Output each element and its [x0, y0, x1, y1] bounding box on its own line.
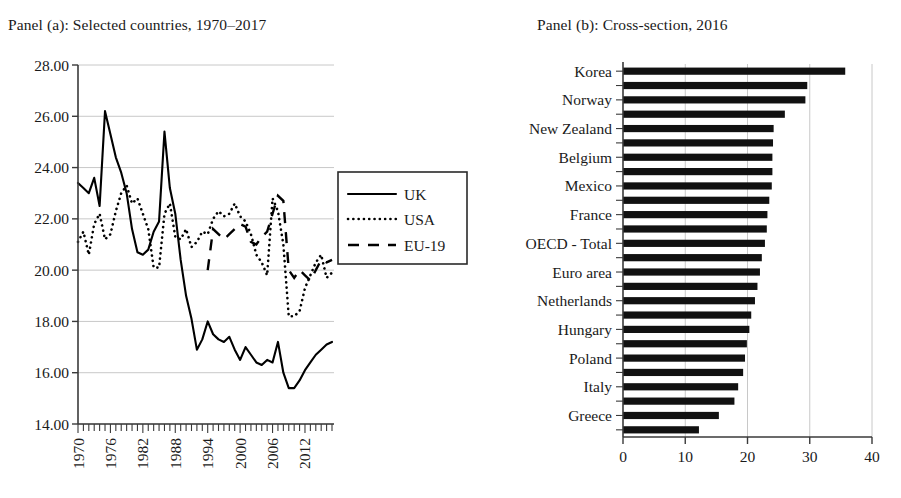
- bar: [623, 283, 757, 290]
- legend-box: [338, 172, 467, 264]
- category-label: Norway: [562, 91, 612, 108]
- y-tick-label: 16.00: [34, 364, 69, 381]
- y-tick-label: 14.00: [34, 416, 69, 433]
- panel-a-title: Panel (a): Selected countries, 1970–2017: [8, 16, 266, 34]
- figure-container: Panel (a): Selected countries, 1970–2017…: [0, 0, 901, 498]
- y-tick-label: 24.00: [34, 159, 69, 176]
- category-label: Mexico: [565, 177, 613, 194]
- bar: [623, 254, 762, 261]
- legend-label-uk: UK: [404, 186, 427, 203]
- bar: [623, 225, 767, 232]
- x-tick-label: 30: [802, 448, 818, 465]
- line-chart-svg: 28.0026.0024.0022.0020.0018.0016.0014.00…: [0, 0, 480, 498]
- x-tick-label: 1970: [70, 438, 87, 469]
- bar: [623, 268, 760, 275]
- bar: [623, 297, 755, 304]
- x-tick-label: 0: [619, 448, 627, 465]
- bar: [623, 111, 785, 118]
- category-label: Italy: [584, 378, 613, 395]
- category-label: Greece: [568, 407, 612, 424]
- bar: [623, 369, 743, 376]
- x-tick-label: 40: [864, 448, 880, 465]
- category-label: OECD - Total: [526, 235, 612, 252]
- bar: [623, 211, 767, 218]
- x-tick-label: 1994: [199, 438, 216, 469]
- line-uk: [78, 111, 332, 388]
- bar: [623, 82, 807, 89]
- panel-b: Panel (b): Cross-section, 2016 KoreaNorw…: [480, 0, 901, 498]
- x-tick-label: 1976: [102, 438, 119, 469]
- y-tick-label: 26.00: [34, 108, 69, 125]
- legend-label-usa: USA: [404, 211, 436, 228]
- legend-label-eu-19: EU-19: [404, 237, 446, 254]
- category-label: Euro area: [552, 264, 612, 281]
- panel-b-title: Panel (b): Cross-section, 2016: [537, 16, 728, 34]
- x-tick-label: 10: [678, 448, 694, 465]
- category-label: Hungary: [558, 321, 612, 338]
- bar: [623, 182, 772, 189]
- y-tick-label: 20.00: [34, 262, 69, 279]
- line-usa: [78, 186, 332, 317]
- bar: [623, 426, 699, 433]
- bar-chart-svg: KoreaNorwayNew ZealandBelgiumMexicoFranc…: [480, 0, 901, 498]
- bar: [623, 154, 772, 161]
- bar: [623, 340, 747, 347]
- category-label: Korea: [574, 63, 612, 80]
- category-label: Belgium: [559, 149, 612, 166]
- bar: [623, 197, 769, 204]
- bar: [623, 125, 774, 132]
- bar: [623, 412, 719, 419]
- bar: [623, 68, 845, 75]
- x-tick-label: 2000: [232, 438, 249, 469]
- x-tick-label: 1988: [167, 438, 184, 469]
- y-tick-label: 28.00: [34, 57, 69, 74]
- bar: [623, 168, 772, 175]
- bar: [623, 240, 765, 247]
- x-tick-label: 2006: [264, 438, 281, 469]
- bar: [623, 311, 751, 318]
- category-label: Netherlands: [537, 292, 612, 309]
- x-tick-label: 20: [740, 448, 756, 465]
- panel-a: Panel (a): Selected countries, 1970–2017…: [0, 0, 480, 498]
- x-tick-label: 1982: [134, 438, 151, 469]
- bar: [623, 398, 734, 405]
- bar: [623, 139, 773, 146]
- bar: [623, 326, 749, 333]
- x-tick-label: 2012: [296, 438, 313, 469]
- bar: [623, 96, 805, 103]
- category-label: France: [570, 206, 612, 223]
- line-eu19: [208, 196, 332, 281]
- y-tick-label: 22.00: [34, 210, 69, 227]
- y-tick-label: 18.00: [34, 313, 69, 330]
- category-label: New Zealand: [529, 120, 612, 137]
- bar: [623, 355, 745, 362]
- category-label: Poland: [569, 350, 612, 367]
- bar: [623, 383, 738, 390]
